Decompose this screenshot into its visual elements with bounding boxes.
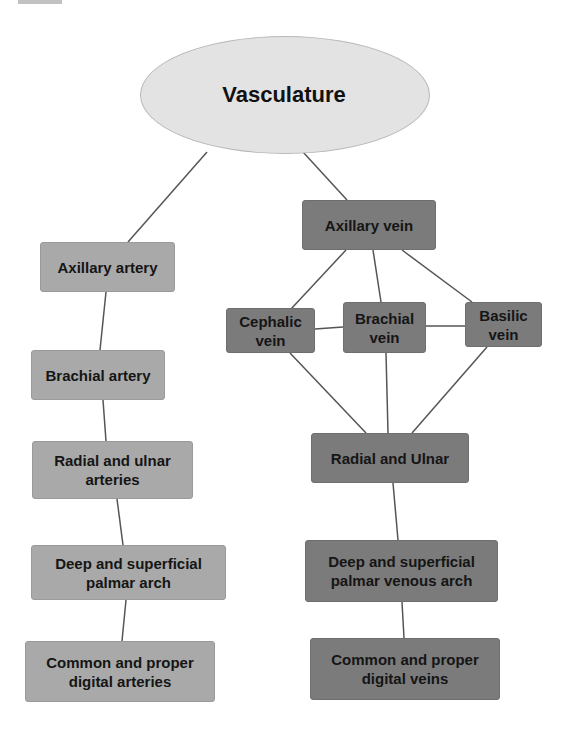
node-brachial-artery: Brachial artery bbox=[31, 350, 165, 400]
node-palmar-arch: Deep and superficial palmar arch bbox=[31, 545, 226, 600]
edge-root-axillary-vein bbox=[303, 152, 347, 200]
edge-axillary-basilic bbox=[402, 250, 472, 302]
node-digital-arteries: Common and proper digital arteries bbox=[25, 641, 215, 702]
node-radial-ulnar-arteries: Radial and ulnar arteries bbox=[32, 441, 193, 499]
node-palmar-venous-arch: Deep and superficial palmar venous arch bbox=[305, 540, 498, 602]
edge-brachial-radial bbox=[386, 353, 388, 433]
edge-root-axillary-artery bbox=[128, 152, 207, 242]
edge-palmar-digital-artery bbox=[122, 600, 126, 641]
node-digital-veins: Common and proper digital veins bbox=[310, 638, 500, 700]
edge-axillary-brachial-vein bbox=[373, 250, 381, 302]
node-brachial-vein: Brachial vein bbox=[343, 302, 426, 353]
edge-cephalic-brachial bbox=[315, 327, 343, 329]
node-axillary-vein: Axillary vein bbox=[302, 200, 436, 250]
node-basilic-vein: Basilic vein bbox=[465, 302, 542, 347]
edge-basilic-radial bbox=[412, 347, 487, 433]
root-label: Vasculature bbox=[222, 82, 346, 108]
vasculature-root-node: Vasculature bbox=[140, 36, 430, 154]
node-axillary-artery: Axillary artery bbox=[40, 242, 175, 292]
node-cephalic-vein: Cephalic vein bbox=[226, 308, 315, 353]
edge-palmar-digital-vein bbox=[402, 602, 404, 638]
edge-axillary-cephalic bbox=[291, 250, 346, 309]
edge-cephalic-radial bbox=[290, 353, 366, 433]
node-radial-ulnar-veins: Radial and Ulnar bbox=[311, 433, 469, 483]
edge-brachial-radial-artery bbox=[103, 400, 106, 441]
edge-axillary-brachial-artery bbox=[100, 292, 106, 350]
edge-radial-palmar-vein bbox=[393, 483, 398, 540]
edge-radial-palmar-artery bbox=[117, 499, 123, 545]
